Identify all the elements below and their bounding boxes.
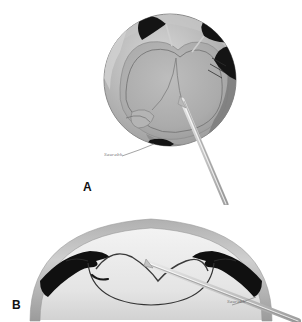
artist-signature-a: Saurabh	[104, 152, 122, 157]
artist-signature-b: Saurabh	[227, 299, 245, 304]
figure-root: Saurabh A	[0, 0, 302, 322]
panel-b-illustration	[0, 205, 302, 322]
panel-b-label: B	[12, 299, 21, 311]
signature-leader-line	[122, 144, 154, 156]
panel-a: Saurabh A	[0, 0, 302, 205]
panel-a-label: A	[83, 181, 92, 193]
panel-a-illustration	[0, 0, 302, 205]
panel-b: Saurabh B	[0, 205, 302, 322]
